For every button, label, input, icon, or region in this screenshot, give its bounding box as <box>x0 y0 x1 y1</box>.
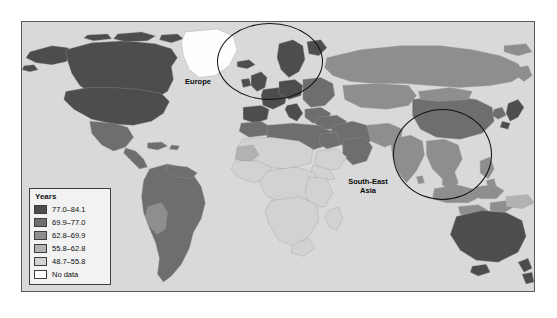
world-map-figure: .c1{fill:#4d4d4d} /* 77.0-84.1 */ .c2{fi… <box>21 21 535 292</box>
legend-swatch <box>34 257 47 266</box>
annotation-line-1: South-East <box>348 177 388 186</box>
europe-annotation-label: Europe <box>178 77 218 86</box>
legend-item: No data <box>34 269 106 280</box>
south-east-asia-annotation-label: South-East Asia <box>342 177 394 195</box>
europe-highlight-circle <box>217 23 323 100</box>
map-legend: Years 77.0–84.1 69.9–77.0 62.8–69.9 55.8… <box>29 188 111 285</box>
figure-caption-top <box>18 0 538 10</box>
legend-item: 48.7–55.8 <box>34 256 106 267</box>
legend-swatch <box>34 270 47 279</box>
legend-item-label: 55.8–62.8 <box>52 244 85 253</box>
annotation-line-2: Asia <box>360 186 376 195</box>
south-east-asia-highlight-circle <box>393 109 492 200</box>
legend-item-label: 62.8–69.9 <box>52 231 85 240</box>
legend-swatch <box>34 218 47 227</box>
legend-title: Years <box>35 192 106 201</box>
legend-item-label: 48.7–55.8 <box>52 257 85 266</box>
legend-swatch <box>34 205 47 214</box>
legend-item-label: 77.0–84.1 <box>52 205 85 214</box>
legend-swatch <box>34 244 47 253</box>
legend-item-label: No data <box>52 270 78 279</box>
legend-item: 62.8–69.9 <box>34 230 106 241</box>
legend-item: 55.8–62.8 <box>34 243 106 254</box>
legend-item-label: 69.9–77.0 <box>52 218 85 227</box>
figure-caption-bottom <box>18 303 318 317</box>
legend-item: 69.9–77.0 <box>34 217 106 228</box>
legend-item: 77.0–84.1 <box>34 204 106 215</box>
legend-swatch <box>34 231 47 240</box>
